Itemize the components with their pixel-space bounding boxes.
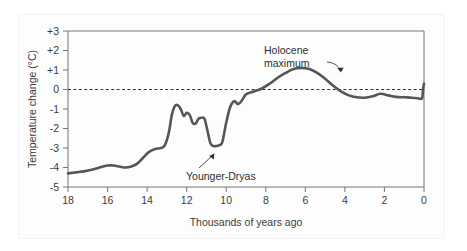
y-tick-label: -1	[50, 103, 59, 115]
x-tick-label: 4	[342, 194, 348, 206]
y-tick-label: -3	[50, 142, 59, 154]
temperature-change-line-chart: +3 +2 +1 0 -1 -2 -3 -4 -5 18 16	[0, 0, 467, 251]
y-tick-label: -4	[50, 161, 59, 173]
y-axis-title: Temperature change (°C)	[26, 50, 38, 168]
x-tick-label: 16	[102, 194, 114, 206]
holocene-maximum-label-line1: Holocene	[264, 44, 309, 56]
y-tick-label: +1	[47, 64, 59, 76]
plot-frame	[68, 31, 424, 187]
figure-container: +3 +2 +1 0 -1 -2 -3 -4 -5 18 16	[0, 0, 467, 251]
x-axis-tick-labels: 18 16 14 12 10 8 6 4 2 0	[62, 194, 427, 206]
x-tick-label: 18	[62, 194, 74, 206]
y-tick-label: +2	[47, 44, 59, 56]
x-axis-title: Thousands of years ago	[190, 216, 303, 228]
x-axis-ticks	[68, 187, 424, 192]
x-tick-label: 8	[263, 194, 269, 206]
y-axis-ticks	[63, 31, 68, 187]
younger-dryas-label: Younger-Dryas	[186, 170, 256, 182]
x-tick-label: 10	[220, 194, 232, 206]
holocene-maximum-annotation: Holocene maximum	[264, 44, 344, 73]
y-tick-label: -2	[50, 122, 59, 134]
y-tick-label: +3	[47, 25, 59, 37]
y-tick-label: 0	[53, 83, 59, 95]
x-tick-label: 2	[381, 194, 387, 206]
x-tick-label: 6	[302, 194, 308, 206]
y-axis-tick-labels: +3 +2 +1 0 -1 -2 -3 -4 -5	[47, 25, 59, 193]
holocene-maximum-label-line2: maximum	[264, 57, 310, 69]
younger-dryas-annotation: Younger-Dryas	[186, 154, 256, 182]
x-tick-label: 12	[181, 194, 193, 206]
temperature-curve	[68, 68, 424, 173]
x-tick-label: 14	[141, 194, 153, 206]
x-tick-label: 0	[421, 194, 427, 206]
holocene-maximum-arrowhead	[337, 68, 343, 73]
y-tick-label: -5	[50, 181, 59, 193]
